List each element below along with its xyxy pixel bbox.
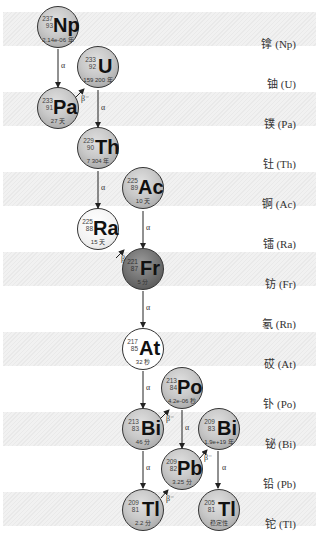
alpha-label: α	[146, 463, 150, 472]
alpha-label: α	[61, 61, 65, 70]
nuclide-th229: 229 90 Th 7 304 年	[77, 127, 119, 169]
alpha-label: α	[146, 303, 150, 312]
nuclide-tl209: 209 81 Tl 2.2 分	[122, 489, 164, 531]
beta-label: β⁻	[166, 494, 174, 503]
alpha-label: α	[222, 463, 226, 472]
nuclide-po213: 213 84 Po 4.2e-06 秒	[161, 367, 203, 409]
nuclide-tl205: 205 81 Tl 稳定性	[198, 489, 240, 531]
nuclide-ra225: 225 88 Ra 15 天	[77, 208, 119, 250]
nuclide-bi213: 213 83 Bi 46 分	[122, 408, 164, 450]
alpha-label: α	[146, 223, 150, 232]
alpha-label: α	[101, 103, 105, 112]
nuclide-fr221: 221 87 Fr 5 分	[122, 248, 164, 290]
beta-label: β⁻	[204, 453, 212, 462]
alpha-label: α	[101, 183, 105, 192]
beta-label: β⁻	[81, 94, 89, 103]
nuclide-pa233: 233 91 Pa 27 天	[37, 87, 79, 129]
nuclide-pb209: 209 82 Pb 3.25 分	[161, 448, 203, 490]
alpha-label: α	[185, 423, 189, 432]
nuclide-bi209: 209 83 Bi 1.9e+19 年	[198, 408, 240, 450]
nuclide-at217: 217 85 At 32 秒	[122, 328, 164, 370]
nuclide-ac225: 225 89 Ac 10 天	[122, 167, 164, 209]
nuclide-np237: 237 93 Np 2.14e-06 年	[37, 6, 79, 48]
nuclide-u233: 233 92 U 159 200 年	[77, 46, 119, 88]
beta-label: β⁻	[166, 414, 174, 423]
alpha-label: α	[146, 383, 150, 392]
